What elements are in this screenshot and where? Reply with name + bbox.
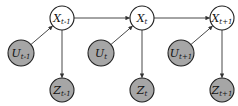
nodes-group: Xt-1XtXt+1Ut-1UtUt+1Zt-1ZtZt+1 (8, 6, 234, 102)
bayesian-network-diagram: Xt-1XtXt+1Ut-1UtUt+1Zt-1ZtZt+1 (0, 0, 238, 106)
node-z_next: Zt+1 (210, 78, 234, 102)
node-z_prev: Zt-1 (50, 78, 74, 102)
node-x_curr: Xt (130, 6, 154, 30)
node-z_curr: Zt (130, 78, 154, 102)
node-x_prev: Xt-1 (50, 6, 74, 30)
edge-u_next-to-x_next (191, 26, 213, 44)
node-x_next: Xt+1 (210, 6, 234, 30)
edge-u_prev-to-x_prev (31, 26, 53, 44)
node-u_prev: Ut-1 (8, 40, 34, 66)
edge-u_curr-to-x_curr (111, 26, 133, 44)
node-u_next: Ut+1 (168, 40, 194, 66)
node-u_curr: Ut (88, 40, 114, 66)
